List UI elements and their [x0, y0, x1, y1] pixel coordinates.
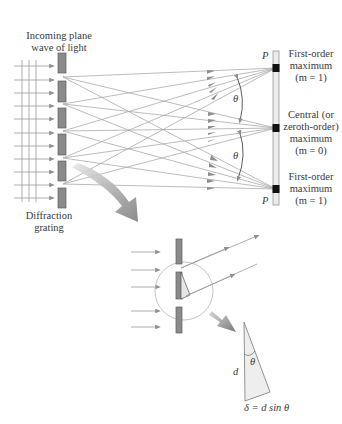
- spacing-d-label: d: [233, 366, 238, 378]
- wavefront-lines: [22, 60, 36, 202]
- max-central-line4: (m = 0): [280, 145, 342, 157]
- first-order-max-top-label: First-order maximum (m = 1): [281, 48, 341, 84]
- central-max-label: Central (or zeroth-order) maximum (m = 0…: [280, 109, 342, 157]
- path-difference-equation: δ = d sin θ: [244, 402, 289, 414]
- incoming-wave-label-line1: Incoming plane: [14, 30, 104, 42]
- incoming-wave-label-line2: wave of light: [14, 42, 104, 54]
- first-order-max-bottom-label: First-order maximum (m = 1): [281, 171, 341, 207]
- screen-marker-bottom: P: [262, 195, 268, 207]
- incoming-rays: [14, 66, 52, 198]
- incoming-wave-label: Incoming plane wave of light: [14, 30, 104, 54]
- max-central-line1: Central (or: [280, 109, 342, 121]
- max-bottom-line3: (m = 1): [281, 195, 341, 207]
- inset-theta-label: θ: [250, 356, 255, 368]
- inset-diffracted-rays: [181, 236, 257, 296]
- max-bottom-line2: maximum: [281, 183, 341, 195]
- theta-label-upper: θ: [233, 93, 238, 105]
- max-top-line3: (m = 1): [281, 72, 341, 84]
- max-bottom-line1: First-order: [281, 171, 341, 183]
- grating-label: Diffraction grating: [14, 210, 84, 234]
- grating-label-line2: grating: [14, 222, 84, 234]
- screen-marker-top: P: [262, 50, 268, 62]
- max-central-line3: maximum: [280, 133, 342, 145]
- path-difference-triangle: [244, 322, 270, 401]
- max-top-line1: First-order: [281, 48, 341, 60]
- theta-label-lower: θ: [233, 150, 238, 162]
- small-pointer-arrow: [209, 311, 236, 332]
- max-central-line2: zeroth-order): [280, 121, 342, 133]
- viewing-screen: [273, 51, 280, 205]
- max-top-line2: maximum: [281, 60, 341, 72]
- inset-incoming-rays: [131, 252, 158, 327]
- grating-label-line1: Diffraction: [14, 210, 84, 222]
